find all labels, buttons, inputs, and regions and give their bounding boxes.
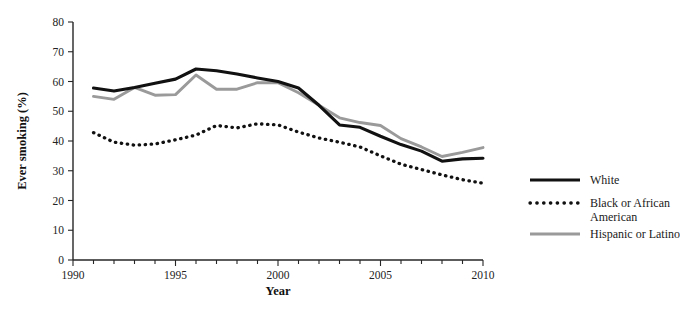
chart-figure: Ever smoking (%) 01020304050607080 19901… xyxy=(0,0,680,315)
y-tick-label: 10 xyxy=(53,224,65,236)
x-tick-label: 1990 xyxy=(62,269,85,281)
ever-smoking-line-chart: Ever smoking (%) 01020304050607080 19901… xyxy=(0,0,680,315)
y-tick-label: 70 xyxy=(53,46,65,58)
y-tick-label: 0 xyxy=(58,254,64,266)
y-tick-label: 80 xyxy=(53,16,65,28)
x-tick-label: 2010 xyxy=(472,269,495,281)
y-tick-label: 60 xyxy=(53,76,65,88)
y-axis-title: Ever smoking (%) xyxy=(15,92,29,190)
legend-label-black-line2: American xyxy=(590,210,637,224)
y-tick-label: 40 xyxy=(53,135,65,147)
y-tick-label: 50 xyxy=(53,105,65,117)
legend-label-hispanic: Hispanic or Latino xyxy=(590,227,680,241)
x-tick-label: 2000 xyxy=(267,269,290,281)
y-tick-label: 30 xyxy=(53,165,65,177)
x-tick-label: 2005 xyxy=(369,269,392,281)
legend-label-black-line1: Black or African xyxy=(590,196,670,210)
chart-background xyxy=(0,0,680,315)
x-axis-title: Year xyxy=(266,284,291,298)
legend-label-white: White xyxy=(590,173,619,187)
y-tick-label: 20 xyxy=(53,195,65,207)
x-tick-label: 1995 xyxy=(164,269,187,281)
